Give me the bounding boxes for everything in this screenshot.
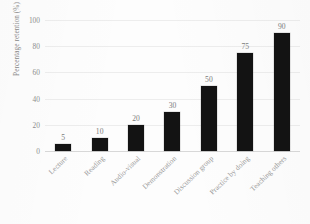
x-axis-category-label: Audio-visual <box>108 154 142 187</box>
y-axis-title: Percentage retention (%) <box>10 0 24 94</box>
y-tick-label: 20 <box>33 120 40 129</box>
plot-area: 0204060801005Lecture10Reading20Audio-vis… <box>45 20 300 151</box>
bar <box>55 144 71 151</box>
x-axis-category-label: Lecture <box>47 154 70 176</box>
bar-chart-figure: Percentage retention (%) 0204060801005Le… <box>0 0 310 224</box>
bar-group: 20Audio-visual <box>118 20 154 151</box>
y-tick-label: 60 <box>33 68 40 77</box>
bar <box>274 33 290 151</box>
gridline-0: 0 <box>45 151 300 152</box>
x-axis-category-label: Reading <box>82 154 106 178</box>
x-axis-category-label: Demonstration <box>141 154 179 191</box>
bar-value-label: 5 <box>61 133 65 142</box>
bar-group: 75Practice by doing <box>227 20 263 151</box>
bar-value-label: 50 <box>205 75 213 84</box>
bar <box>92 138 108 151</box>
bar-value-label: 20 <box>132 114 140 123</box>
y-tick-label: 80 <box>33 42 40 51</box>
bar <box>237 53 253 151</box>
x-axis-category-label: Teaching others <box>248 154 288 193</box>
bar-group: 30Demonstration <box>154 20 190 151</box>
bar-value-label: 75 <box>242 42 250 51</box>
y-tick-label: 40 <box>33 94 40 103</box>
bar-group: 5Lecture <box>45 20 81 151</box>
y-tick-label: 100 <box>29 16 40 25</box>
bar-group: 90Teaching others <box>264 20 300 151</box>
bar <box>164 112 180 151</box>
bar-value-label: 10 <box>96 127 104 136</box>
bar-value-label: 30 <box>169 101 177 110</box>
bar-group: 50Discussion group <box>191 20 227 151</box>
bar <box>201 86 217 152</box>
y-tick-label: 0 <box>36 147 40 156</box>
bar-group: 10Reading <box>81 20 117 151</box>
bar <box>128 125 144 151</box>
bar-value-label: 90 <box>278 22 286 31</box>
